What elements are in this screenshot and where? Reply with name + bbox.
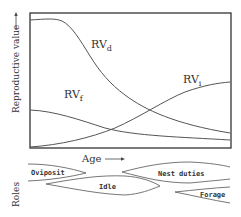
role-label-oviposit: Oviposit xyxy=(31,169,65,177)
y-axis-label-group: Reproductive value xyxy=(11,12,21,113)
y-axis-label: Reproductive value xyxy=(11,25,21,113)
x-axis-arrowhead-icon xyxy=(121,157,125,160)
label-rvi: RVi xyxy=(183,73,202,88)
curve-rvf xyxy=(30,110,230,140)
curve-rvd xyxy=(30,19,230,133)
role-band-forage: Forage xyxy=(175,187,230,203)
role-label-idle: Idle xyxy=(99,183,116,191)
y-axis-arrowhead-icon xyxy=(14,12,17,16)
roles-label: Roles xyxy=(11,182,21,207)
x-axis-label-group: Age xyxy=(81,153,125,164)
role-label-nest-duties: Nest duties xyxy=(158,170,204,178)
role-band-idle: Idle xyxy=(46,176,160,195)
role-band-nest-duties: Nest duties xyxy=(122,162,230,183)
label-rvf: RVf xyxy=(64,88,84,103)
label-rvd: RVd xyxy=(91,38,112,53)
x-axis-label: Age xyxy=(81,153,102,164)
reproductive-value-diagram: Reproductive value RVd RVf RVi Age Roles… xyxy=(0,0,241,217)
role-label-forage: Forage xyxy=(200,191,225,199)
